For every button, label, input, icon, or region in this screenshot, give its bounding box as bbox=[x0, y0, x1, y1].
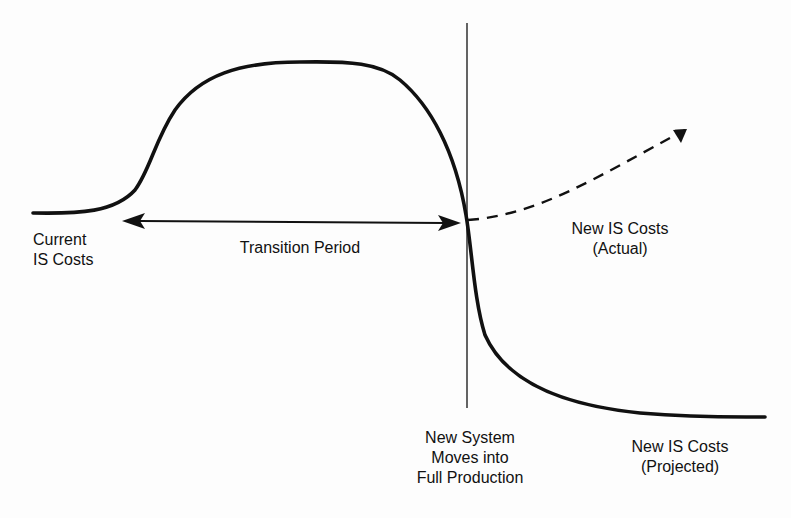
full-production-label: New System Moves into Full Production bbox=[385, 428, 555, 488]
new-costs-projected-label: New IS Costs (Projected) bbox=[605, 437, 755, 477]
actual-cost-arrow bbox=[468, 130, 685, 220]
actual-cost-arrowhead bbox=[673, 129, 687, 143]
transition-period-label: Transition Period bbox=[200, 238, 400, 258]
current-costs-label: Current IS Costs bbox=[33, 230, 93, 270]
diagram-canvas: Current IS Costs Transition Period New I… bbox=[0, 0, 791, 518]
new-costs-actual-label: New IS Costs (Actual) bbox=[545, 219, 695, 259]
transition-arrow bbox=[140, 221, 445, 223]
